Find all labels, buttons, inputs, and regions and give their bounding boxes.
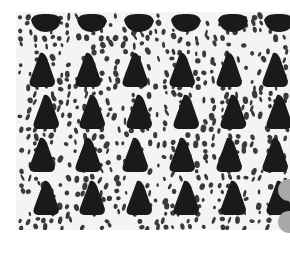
mesh-hole (29, 72, 32, 77)
top-margin (0, 0, 290, 12)
mesh-hole (148, 140, 152, 147)
mesh-hole (196, 84, 201, 90)
mesh-hole (117, 155, 122, 161)
left-margin (0, 0, 16, 253)
mesh-hole (164, 203, 169, 210)
lace-fabric (0, 0, 290, 253)
mesh-hole (18, 15, 22, 19)
mesh-hole (124, 118, 126, 125)
mesh-hole (109, 23, 113, 27)
mesh-hole (26, 84, 30, 91)
bottom-margin (0, 230, 290, 253)
lace-knit-photo (0, 0, 290, 253)
